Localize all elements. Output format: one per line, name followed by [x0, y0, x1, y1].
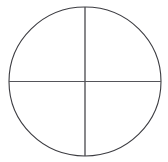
diagram-canvas: Circle divided into four quadrants by a … [0, 0, 168, 162]
circle-crosshair-svg [0, 0, 168, 162]
